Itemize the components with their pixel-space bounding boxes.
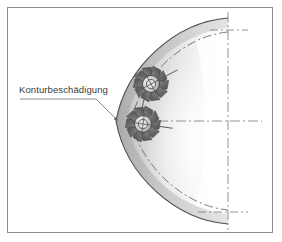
figure-container: Konturbeschädigung — [0, 0, 282, 242]
technical-drawing-canvas — [0, 0, 282, 242]
contour-damage-label: Konturbeschädigung — [19, 84, 108, 96]
contour-damage-leader-line — [20, 99, 118, 121]
